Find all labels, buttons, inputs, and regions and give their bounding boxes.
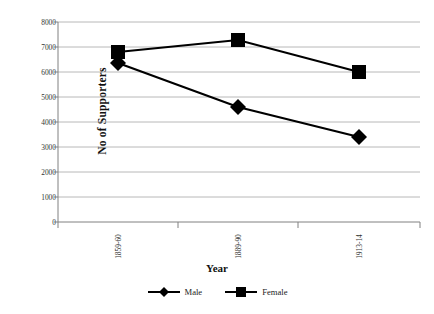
- legend-label-male: Male: [185, 288, 203, 297]
- plot-area: [0, 0, 434, 240]
- x-tick-label-text: 1889-90: [234, 234, 243, 259]
- series-male: [110, 55, 367, 145]
- diamond-marker-icon: [147, 286, 181, 298]
- line-chart: No of Supporters 8000 7000 6000 5000 400…: [0, 0, 434, 314]
- legend-item-female[interactable]: Female: [224, 286, 287, 298]
- legend-label-female: Female: [262, 288, 287, 297]
- y-tick-marks: [54, 22, 58, 222]
- square-marker-icon: [224, 286, 258, 298]
- data-point-male-1913-14: [351, 129, 367, 145]
- x-axis-title: Year: [0, 262, 434, 274]
- x-tick-label-text: 1913-14: [355, 234, 364, 259]
- legend-item-male[interactable]: Male: [147, 286, 203, 298]
- data-point-male-1889-90: [230, 99, 246, 115]
- data-point-female-1913-14: [352, 65, 366, 79]
- chart-legend: Male Female: [0, 286, 434, 298]
- data-point-female-1889-90: [231, 33, 245, 47]
- x-tick-label-text: 1859-60: [114, 234, 123, 259]
